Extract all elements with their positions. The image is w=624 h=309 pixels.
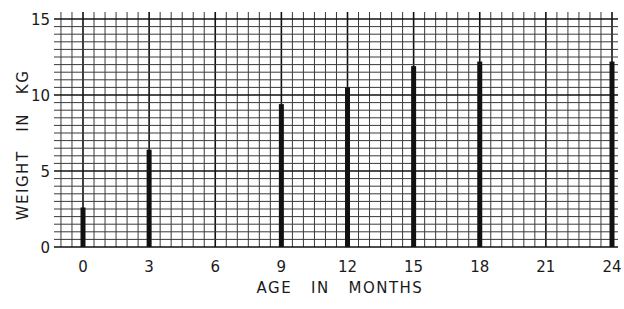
x-axis-title: AGE IN MONTHS (257, 279, 424, 297)
bar-month-15 (411, 66, 416, 247)
x-tick-label: 0 (78, 258, 88, 276)
y-tick-label: 15 (31, 11, 50, 29)
x-tick-label: 15 (404, 258, 423, 276)
x-axis-ticks: 03691215182124 (78, 258, 621, 276)
y-axis-title: WEIGHT IN KG (14, 70, 32, 221)
x-tick-label: 6 (210, 258, 220, 276)
bar-month-24 (610, 62, 615, 247)
bar-month-18 (477, 62, 482, 247)
x-tick-label: 12 (338, 258, 357, 276)
x-tick-label: 24 (602, 258, 621, 276)
y-axis-ticks: 051015 (31, 11, 50, 257)
graph-paper-grid (54, 12, 618, 247)
y-tick-label: 5 (40, 163, 50, 181)
x-tick-label: 3 (144, 258, 154, 276)
y-tick-label: 0 (40, 239, 50, 257)
bar-month-0 (81, 207, 86, 247)
x-tick-label: 21 (536, 258, 555, 276)
bar-month-9 (279, 104, 284, 247)
weight-by-age-chart: 051015 03691215182124 AGE IN MONTHS WEIG… (0, 0, 624, 309)
bar-month-12 (345, 87, 350, 247)
x-tick-label: 18 (470, 258, 489, 276)
x-tick-label: 9 (277, 258, 287, 276)
bar-month-3 (147, 150, 152, 247)
y-tick-label: 10 (31, 87, 50, 105)
